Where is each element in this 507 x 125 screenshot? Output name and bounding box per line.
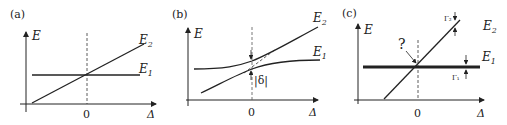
e2-label: E2 [312,11,327,27]
e2-label: E2 [482,19,497,35]
e2-level [384,20,460,99]
y-axis-label: E [363,23,373,37]
panel-a: (a) E Δ 0 E2 E1 [10,8,156,121]
e1-label: E1 [481,50,496,66]
panel-c-label: (c) [342,7,357,20]
y-axis-label: E [193,27,203,41]
x-axis-label: Δ [476,107,485,120]
e2-level [32,44,144,103]
panel-b: (b) E Δ 0 |δ| E2 E1 [172,8,327,119]
x-axis-label: Δ [146,108,155,121]
y-axis-label: E [31,29,41,43]
panel-a-label: (a) [10,8,25,21]
question-arrow [406,51,416,63]
gamma1-label: Γ₁ [452,74,460,82]
e1-label: E1 [312,45,327,61]
gap-label: |δ| [254,74,268,88]
zero-tick: 0 [414,107,421,120]
zero-tick: 0 [248,106,255,119]
x-axis-label: Δ [308,106,317,119]
level-crossing-diagram: (a) E Δ 0 E2 E1 (b) E Δ 0 |δ| E2 E1 (c) … [0,0,507,125]
panel-b-label: (b) [172,8,188,21]
e2-curve [194,27,318,69]
e2-label: E2 [138,33,153,49]
e1-label: E1 [138,62,153,78]
panel-c: (c) E Δ 0 ? Γ₂ Γ₁ E2 E1 [342,7,497,120]
gamma2-label: Γ₂ [444,15,452,23]
question-mark: ? [398,36,406,52]
zero-tick: 0 [83,108,90,121]
